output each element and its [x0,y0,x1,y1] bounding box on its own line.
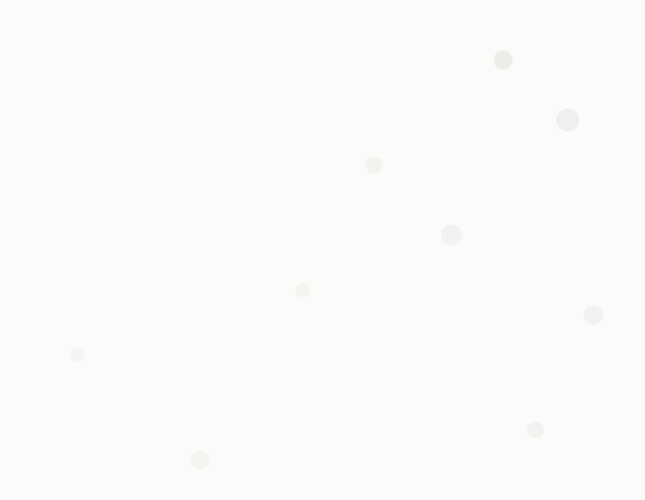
figure-container [0,0,645,500]
chart-svg [0,0,645,500]
